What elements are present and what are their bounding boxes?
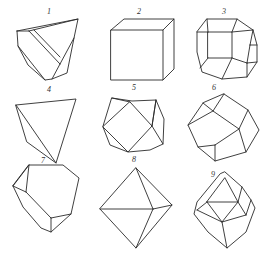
crystal-9-label: 9 — [211, 171, 215, 179]
crystal-3-drawing — [197, 19, 257, 79]
crystal-forms-figure: 1 2 3 4 5 6 7 8 9 — [0, 0, 272, 262]
crystal-1-drawing — [17, 19, 78, 80]
crystal-4-drawing — [16, 99, 76, 163]
crystal-1-label: 1 — [47, 8, 51, 16]
crystal-6-label: 6 — [212, 84, 216, 92]
crystal-7-label: 7 — [41, 157, 45, 165]
crystal-2-label: 2 — [137, 8, 141, 16]
crystal-7-drawing — [13, 165, 79, 232]
crystal-8-drawing — [100, 168, 172, 248]
crystal-9-drawing — [194, 172, 255, 248]
crystal-4-label: 4 — [47, 86, 51, 94]
crystal-6-drawing — [188, 94, 259, 161]
crystal-8-label: 8 — [132, 156, 136, 164]
crystal-3-label: 3 — [222, 8, 226, 16]
crystal-2-drawing — [111, 19, 174, 80]
crystal-5-label: 5 — [132, 84, 136, 92]
crystal-5-drawing — [103, 98, 164, 152]
